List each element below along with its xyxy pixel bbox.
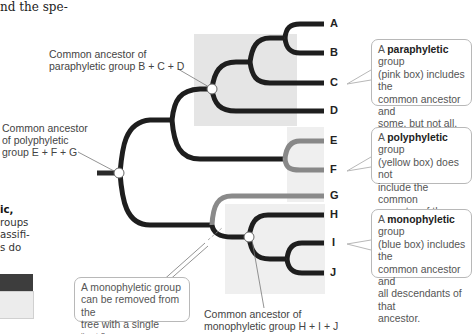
tip-label-j: J (330, 266, 336, 278)
polyphyletic-term: polyphyletic (387, 132, 448, 143)
monophyletic-callout: A monophyletic group (blue box) includes… (371, 209, 472, 278)
monophyletic-ancestor-node (244, 232, 254, 242)
monophyletic-term: monophyletic (387, 214, 455, 225)
tip-label-c: C (330, 76, 338, 88)
polyphyletic-callout: A polyphyletic group (yellow box) does n… (371, 127, 472, 184)
tip-label-f: F (330, 163, 337, 175)
polyphyletic-ancestor-label: Common ancestor of polyphyletic group E … (2, 122, 88, 158)
root-ancestor-node (114, 168, 124, 178)
tip-label-i: I (332, 236, 335, 248)
paraphyletic-ancestor-node (207, 84, 217, 94)
paraphyletic-callout: A paraphyletic group (pink box) includes… (371, 39, 472, 106)
tip-label-d: D (330, 104, 338, 116)
cut-callout: A monophyletic group can be removed from… (74, 277, 190, 322)
tip-label-b: B (330, 46, 338, 58)
paraphyletic-ancestor-label: Common ancestor of paraphyletic group B … (49, 48, 184, 72)
paraphyletic-term: paraphyletic (387, 44, 448, 55)
tip-label-h: H (330, 208, 338, 220)
tip-label-e: E (330, 134, 337, 146)
monophyletic-ancestor-label: Common ancestor of monophyletic group H … (204, 308, 338, 332)
tip-label-a: A (330, 17, 338, 29)
tip-label-g: G (330, 189, 339, 201)
